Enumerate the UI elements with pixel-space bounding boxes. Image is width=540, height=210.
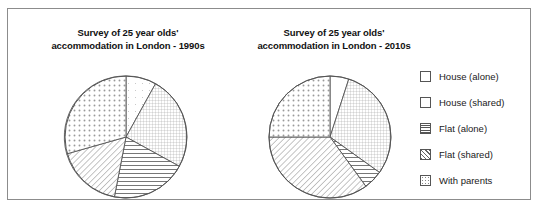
chart-title-2010s-line1: Survey of 25 year olds' — [232, 27, 436, 40]
chart-title-1990s-line2: accommodation in London - 1990s — [28, 40, 228, 53]
legend-swatch-flat-shared — [420, 149, 431, 160]
pie-chart-1990s-svg — [62, 73, 190, 201]
screenshot-root: Survey of 25 year olds' accommodation in… — [0, 0, 540, 210]
pie-chart-1990s — [62, 73, 190, 201]
legend-label-house-shared: House (shared) — [439, 97, 504, 108]
content-frame: Survey of 25 year olds' accommodation in… — [7, 8, 531, 200]
legend-item-flat-alone: Flat (alone) — [420, 115, 538, 141]
legend-swatch-house-alone — [420, 71, 431, 82]
legend-swatch-house-shared — [420, 97, 431, 108]
chart-title-1990s-line1: Survey of 25 year olds' — [28, 27, 228, 40]
legend: House (alone) House (shared) Flat (alone… — [420, 63, 538, 193]
legend-label-house-alone: House (alone) — [439, 71, 499, 82]
legend-item-with-parents: With parents — [420, 167, 538, 193]
chart-title-1990s: Survey of 25 year olds' accommodation in… — [28, 27, 228, 52]
legend-item-flat-shared: Flat (shared) — [420, 141, 538, 167]
pie-chart-2010s — [266, 73, 394, 201]
legend-label-flat-alone: Flat (alone) — [439, 123, 487, 134]
legend-item-house-shared: House (shared) — [420, 89, 538, 115]
pie-2010s-slice-with-parents — [269, 76, 330, 137]
legend-swatch-with-parents — [420, 175, 431, 186]
pie-chart-2010s-svg — [266, 73, 394, 201]
chart-title-2010s-line2: accommodation in London - 2010s — [232, 40, 436, 53]
legend-label-with-parents: With parents — [439, 175, 492, 186]
chart-title-2010s: Survey of 25 year olds' accommodation in… — [232, 27, 436, 52]
legend-swatch-flat-alone — [420, 123, 431, 134]
legend-label-flat-shared: Flat (shared) — [439, 149, 493, 160]
legend-item-house-alone: House (alone) — [420, 63, 538, 89]
